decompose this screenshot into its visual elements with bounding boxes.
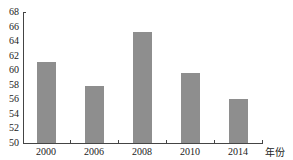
- bar-2014: [229, 99, 248, 143]
- x-tick-label: 2014: [218, 146, 258, 158]
- y-tick-label: 50: [0, 138, 19, 148]
- y-tick-label: 58: [0, 80, 19, 90]
- y-tick-label: 52: [0, 123, 19, 133]
- bar-2000: [37, 62, 56, 143]
- x-tick: [118, 140, 119, 143]
- bar-2006: [85, 86, 104, 143]
- x-tick: [70, 140, 71, 143]
- x-tick: [262, 140, 263, 143]
- x-tick-label: 2006: [74, 146, 114, 158]
- x-tick-label: 2008: [122, 146, 162, 158]
- x-tick: [166, 140, 167, 143]
- y-tick-label: 62: [0, 51, 19, 61]
- x-tick-label: 2010: [170, 146, 210, 158]
- y-tick-label: 68: [0, 7, 19, 17]
- y-tick-label: 64: [0, 36, 19, 46]
- y-tick-label: 66: [0, 22, 19, 32]
- x-tick: [214, 140, 215, 143]
- x-tick-label: 2000: [26, 146, 66, 158]
- y-tick-label: 54: [0, 109, 19, 119]
- bar-chart: 50525456586062646668 2000200620082010201…: [0, 0, 293, 160]
- y-tick-label: 60: [0, 65, 19, 75]
- bar-2008: [133, 32, 152, 143]
- x-axis-line: [23, 143, 263, 144]
- y-tick-label: 56: [0, 94, 19, 104]
- y-axis-line: [23, 12, 24, 144]
- x-axis-title: 年份: [265, 147, 285, 159]
- bar-2010: [181, 73, 200, 143]
